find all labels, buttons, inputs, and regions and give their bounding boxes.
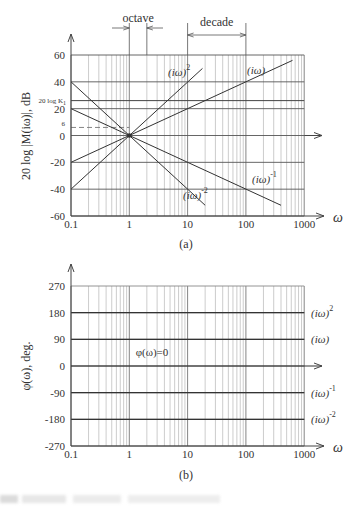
y-tick-label: 40	[54, 76, 66, 88]
phase-chart: (iω)2(iω)(iω)-1(iω)-2 270180900-90-180-2…	[19, 264, 343, 482]
blurred-caption-fragment	[0, 495, 220, 503]
x-tick-label: 1000	[293, 448, 316, 460]
y-tick-label: -40	[50, 183, 65, 195]
y-tick-label: 60	[54, 49, 66, 61]
series-label: (iω)2	[168, 63, 190, 79]
series-label: (iω)-2	[311, 410, 336, 426]
magnitude-y-axis-label: 20 log |M(iω)|, dB	[19, 92, 33, 180]
bode-figure: 20 log K16 (iω)2(iω)(iω)-1(iω)-2 6040200…	[0, 0, 360, 506]
y-tick-label: 20	[54, 103, 66, 115]
y-tick-label: -90	[50, 387, 65, 399]
phase-y-axis-label: φ(ω), deg.	[19, 341, 33, 390]
octave-decade-annotations: octavedecade	[112, 11, 246, 55]
y-tick-label: 0	[60, 360, 66, 372]
decade-label: decade	[200, 15, 233, 29]
x-tick-label: 10	[182, 448, 194, 460]
x-tick-label: 1000	[293, 218, 316, 230]
y-tick-label: 0	[60, 130, 66, 142]
series-label: (iω)	[247, 64, 265, 77]
asymptote-line	[71, 109, 281, 206]
y-tick-label: 180	[49, 307, 66, 319]
asymptote-line	[71, 68, 202, 189]
intersection-point	[127, 133, 131, 137]
series-label: (iω)-1	[311, 384, 336, 400]
phase-lines: (iω)2(iω)(iω)-1(iω)-2	[71, 304, 336, 427]
series-label: (iω)-1	[252, 170, 277, 186]
series-label: (iω)	[311, 333, 329, 346]
phase-tick-labels: 270180900-90-180-2700.11101001000	[45, 280, 316, 460]
y-tick-label: 270	[49, 280, 66, 292]
y-tick-label: -270	[45, 440, 66, 452]
reference-label-6db: 6	[62, 120, 66, 128]
caption-b: (b)	[179, 468, 193, 482]
caption-a: (a)	[179, 237, 192, 251]
y-tick-label: -20	[50, 156, 65, 168]
x-tick-label: 0.1	[64, 448, 78, 460]
x-tick-label: 100	[238, 218, 255, 230]
phase-x-axis-label: ω	[333, 440, 343, 455]
x-tick-label: 0.1	[64, 218, 78, 230]
octave-label: octave	[122, 11, 153, 25]
series-label: (iω)2	[311, 304, 333, 320]
x-tick-label: 100	[238, 448, 255, 460]
magnitude-x-axis-label: ω	[333, 210, 343, 225]
magnitude-chart: 20 log K16 (iω)2(iω)(iω)-1(iω)-2 6040200…	[19, 11, 343, 251]
y-tick-label: 90	[54, 333, 66, 345]
series-label: (iω)-2	[183, 186, 208, 202]
y-tick-label: -180	[45, 413, 66, 425]
x-tick-label: 1	[127, 218, 133, 230]
x-tick-label: 10	[182, 218, 194, 230]
x-tick-label: 1	[127, 448, 133, 460]
phase-zero-label: φ(ω)=0	[136, 346, 169, 359]
